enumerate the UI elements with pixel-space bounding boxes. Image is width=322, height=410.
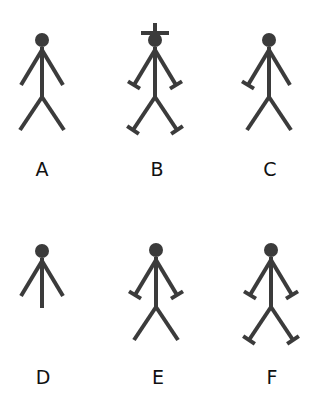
right-arm — [156, 260, 177, 295]
figure-label-a: A — [22, 158, 62, 180]
left-leg — [249, 307, 271, 340]
figure-label-c: C — [250, 158, 290, 180]
left-arm — [135, 260, 156, 295]
left-arm — [21, 50, 42, 85]
left-leg — [247, 97, 269, 130]
stick-figure-a — [20, 33, 64, 130]
left-arm — [134, 50, 155, 85]
left-arm — [250, 260, 271, 295]
right-arm — [42, 50, 63, 85]
stick-figure-e — [129, 243, 183, 340]
head-icon — [262, 33, 276, 47]
left-arm — [21, 261, 42, 296]
head-icon — [35, 33, 49, 47]
right-leg — [271, 307, 293, 340]
right-arm — [271, 260, 292, 295]
right-leg — [155, 97, 177, 130]
stick-figure-c — [242, 33, 291, 130]
right-leg — [269, 97, 291, 130]
right-leg — [156, 307, 178, 340]
figure-label-f: F — [252, 366, 292, 388]
head-icon — [148, 33, 162, 47]
right-arm — [155, 50, 176, 85]
head-icon — [264, 243, 278, 257]
stick-figure-f — [243, 243, 299, 344]
right-arm — [42, 261, 63, 296]
figure-label-e: E — [138, 366, 178, 388]
left-leg — [20, 97, 42, 130]
right-leg — [42, 97, 64, 130]
left-leg — [133, 97, 155, 130]
left-arm — [248, 50, 269, 85]
right-arm — [269, 50, 290, 85]
figure-label-b: B — [137, 158, 177, 180]
head-icon — [149, 243, 163, 257]
head-icon — [35, 244, 49, 258]
figure-label-d: D — [23, 366, 63, 388]
stick-figure-diagram — [0, 0, 322, 410]
left-leg — [134, 307, 156, 340]
stick-figure-d — [21, 244, 63, 308]
stick-figure-b — [127, 23, 183, 134]
